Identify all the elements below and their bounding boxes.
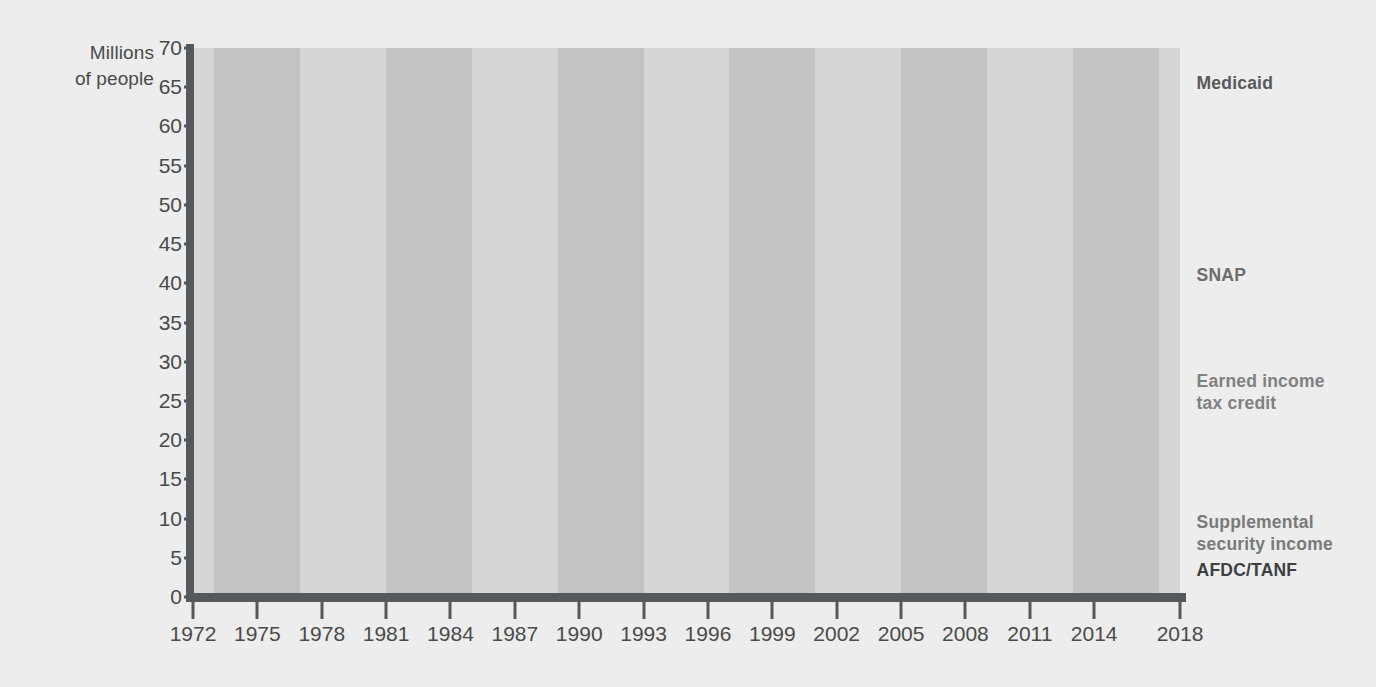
x-tick-label: 1993 bbox=[620, 622, 667, 646]
background-band bbox=[558, 48, 644, 597]
y-tick-label: 35 bbox=[138, 311, 182, 335]
background-band bbox=[815, 48, 901, 597]
x-tick-mark bbox=[642, 602, 645, 619]
y-tick-label: 60 bbox=[138, 114, 182, 138]
x-tick-mark bbox=[385, 602, 388, 619]
y-tick-label: 45 bbox=[138, 232, 182, 256]
chart-figure: Millions of people 051015202530354045505… bbox=[0, 0, 1376, 687]
x-tick-label: 2002 bbox=[813, 622, 860, 646]
x-tick-mark bbox=[964, 602, 967, 619]
series-label: Earned income tax credit bbox=[1197, 370, 1325, 414]
x-tick-label: 1987 bbox=[491, 622, 538, 646]
y-tick-mark bbox=[184, 125, 194, 128]
y-tick-label: 20 bbox=[138, 428, 182, 452]
y-tick-label: 70 bbox=[138, 36, 182, 60]
background-band bbox=[987, 48, 1073, 597]
background-band bbox=[901, 48, 987, 597]
y-tick-label: 30 bbox=[138, 350, 182, 374]
x-tick-label: 1999 bbox=[749, 622, 796, 646]
y-tick-mark bbox=[184, 86, 194, 89]
background-band bbox=[1073, 48, 1159, 597]
x-tick-mark bbox=[1179, 602, 1182, 619]
x-tick-label: 1978 bbox=[298, 622, 345, 646]
y-tick-label: 15 bbox=[138, 467, 182, 491]
y-tick-mark bbox=[184, 556, 194, 559]
y-tick-mark bbox=[184, 47, 194, 50]
background-band bbox=[214, 48, 300, 597]
y-tick-label: 55 bbox=[138, 154, 182, 178]
x-tick-label: 2008 bbox=[942, 622, 989, 646]
background-band bbox=[729, 48, 815, 597]
y-tick-mark bbox=[184, 439, 194, 442]
x-tick-mark bbox=[256, 602, 259, 619]
x-tick-mark bbox=[1028, 602, 1031, 619]
x-tick-mark bbox=[192, 602, 195, 619]
x-tick-mark bbox=[706, 602, 709, 619]
y-tick-mark bbox=[184, 164, 194, 167]
y-tick-mark bbox=[184, 203, 194, 206]
x-tick-label: 1990 bbox=[556, 622, 603, 646]
x-axis-line bbox=[186, 593, 1186, 602]
background-band bbox=[386, 48, 472, 597]
x-tick-label: 1972 bbox=[170, 622, 217, 646]
background-band bbox=[300, 48, 386, 597]
y-tick-mark bbox=[184, 282, 194, 285]
plot-area bbox=[193, 48, 1180, 597]
background-band bbox=[193, 48, 214, 597]
x-tick-label: 1996 bbox=[685, 622, 732, 646]
x-tick-mark bbox=[449, 602, 452, 619]
y-tick-label: 0 bbox=[138, 585, 182, 609]
x-tick-label: 2011 bbox=[1007, 622, 1052, 646]
y-tick-mark bbox=[184, 399, 194, 402]
x-tick-mark bbox=[320, 602, 323, 619]
x-tick-mark bbox=[1093, 602, 1096, 619]
x-tick-label: 1975 bbox=[234, 622, 281, 646]
y-tick-mark bbox=[184, 596, 194, 599]
background-band bbox=[1159, 48, 1180, 597]
y-tick-label: 65 bbox=[138, 75, 182, 99]
series-label: SNAP bbox=[1197, 264, 1246, 286]
y-tick-mark bbox=[184, 243, 194, 246]
y-tick-mark bbox=[184, 517, 194, 520]
y-tick-mark bbox=[184, 478, 194, 481]
y-tick-label: 50 bbox=[138, 193, 182, 217]
x-tick-mark bbox=[771, 602, 774, 619]
x-tick-label: 2005 bbox=[878, 622, 925, 646]
y-tick-label: 40 bbox=[138, 271, 182, 295]
background-band bbox=[472, 48, 558, 597]
series-label: AFDC/TANF bbox=[1197, 559, 1298, 581]
x-tick-mark bbox=[835, 602, 838, 619]
series-label: Supplemental security income bbox=[1197, 511, 1333, 555]
x-tick-label: 2018 bbox=[1157, 622, 1204, 646]
y-tick-mark bbox=[184, 321, 194, 324]
series-label: Medicaid bbox=[1197, 72, 1273, 94]
y-tick-label: 10 bbox=[138, 507, 182, 531]
y-tick-label: 25 bbox=[138, 389, 182, 413]
background-band bbox=[644, 48, 730, 597]
x-tick-label: 1984 bbox=[427, 622, 474, 646]
x-tick-mark bbox=[513, 602, 516, 619]
x-tick-label: 1981 bbox=[363, 622, 410, 646]
x-tick-mark bbox=[578, 602, 581, 619]
y-tick-mark bbox=[184, 360, 194, 363]
x-tick-mark bbox=[900, 602, 903, 619]
x-tick-label: 2014 bbox=[1071, 622, 1118, 646]
y-tick-label: 5 bbox=[138, 546, 182, 570]
